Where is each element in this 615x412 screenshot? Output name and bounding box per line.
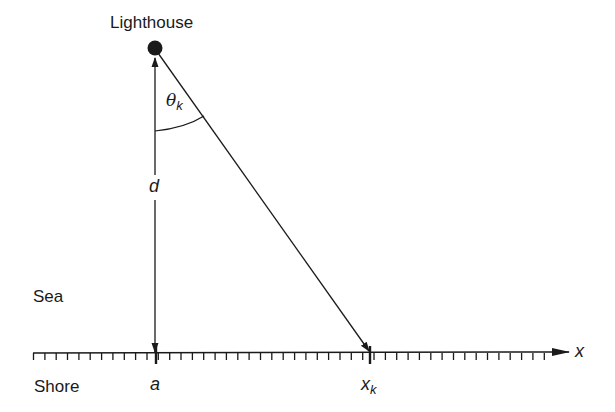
lighthouse-diagram: Lighthouse d θk Sea Shore x a xk <box>0 0 615 412</box>
sea-label: Sea <box>33 287 64 306</box>
x-axis-label: x <box>574 341 585 361</box>
point-a-label: a <box>150 374 160 394</box>
distance-d-label: d <box>149 176 160 196</box>
angle-theta-k-label: θk <box>166 90 184 113</box>
angle-arc <box>155 116 204 131</box>
shore-x-axis <box>33 352 569 353</box>
shore-ticks <box>34 353 545 360</box>
light-ray-arrow <box>158 53 369 351</box>
shore-label: Shore <box>34 377 79 396</box>
lighthouse-point-icon <box>148 41 163 56</box>
lighthouse-label: Lighthouse <box>110 13 193 32</box>
point-xk-label: xk <box>360 374 378 397</box>
